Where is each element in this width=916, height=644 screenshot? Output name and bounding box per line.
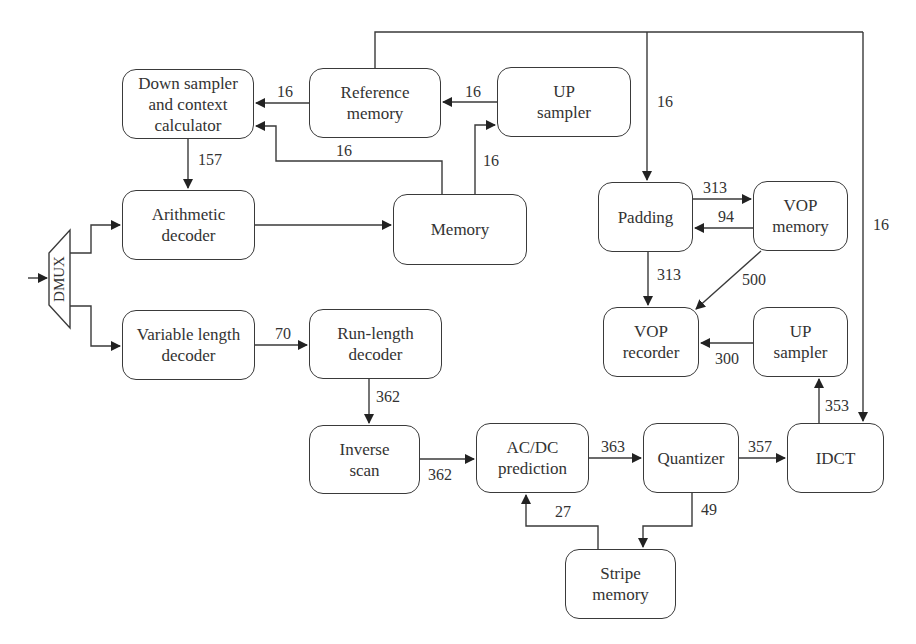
acdc-prediction-block: AC/DC prediction [476, 423, 589, 493]
run-length-decoder-block: Run-length decoder [309, 309, 442, 379]
arithmetic-decoder-block: Arithmetic decoder [122, 190, 255, 260]
dmux-block: DMUX [49, 230, 70, 328]
arithmetic-decoder-label: Arithmetic decoder [152, 204, 226, 246]
inverse-scan-label: Inverse scan [339, 439, 389, 481]
dmux-label: DMUX [51, 256, 67, 302]
edge-label-acdc-to-quant: 363 [601, 439, 625, 455]
edge-label-down-to-arith: 157 [198, 152, 222, 168]
up-sampler-top-block: UP sampler [497, 67, 631, 137]
inverse-scan-block: Inverse scan [309, 425, 420, 494]
edge-label-upr-to-recorder: 300 [715, 351, 739, 367]
edge-label-pad-to-recorder: 313 [657, 267, 681, 283]
edge-label-idct-to-upr: 353 [825, 398, 849, 414]
edge-dmux-to-arith [70, 225, 120, 253]
idct-label: IDCT [816, 448, 856, 469]
reference-memory-block: Reference memory [309, 68, 441, 138]
quantizer-block: Quantizer [643, 423, 739, 493]
memory-label: Memory [431, 219, 490, 240]
up-sampler-right-label: UP sampler [774, 321, 828, 363]
edge-label-rld-to-iscan: 362 [376, 389, 400, 405]
run-length-decoder-label: Run-length decoder [337, 323, 414, 365]
vop-memory-block: VOP memory [753, 181, 848, 251]
padding-label: Padding [618, 207, 674, 228]
quantizer-label: Quantizer [657, 448, 724, 469]
vop-recorder-block: VOP recorder [603, 307, 699, 377]
variable-length-decoder-label: Variable length decoder [137, 324, 240, 366]
edge-top-bus [375, 32, 863, 68]
variable-length-decoder-block: Variable length decoder [122, 310, 255, 380]
up-sampler-top-label: UP sampler [537, 81, 591, 123]
decoder-block-diagram: DMUX Down sampler and context calculator… [0, 0, 916, 644]
edge-label-quant-to-idct: 357 [748, 439, 772, 455]
edge-label-pad-to-vopmem: 313 [703, 180, 727, 196]
edge-label-up-to-ref: 16 [465, 84, 481, 100]
acdc-prediction-label: AC/DC prediction [498, 437, 567, 479]
vop-memory-label: VOP memory [772, 195, 829, 237]
down-sampler-block: Down sampler and context calculator [122, 69, 254, 139]
edge-label-vld-to-rld: 70 [275, 326, 291, 342]
edge-label-vopmem-to-recorder: 500 [742, 272, 766, 288]
edge-label-mem-to-down: 16 [336, 143, 352, 159]
edge-dmux-to-vld [70, 306, 120, 346]
reference-memory-label: Reference memory [341, 82, 410, 124]
edge-label-quant-to-stripe: 49 [701, 502, 717, 518]
edge-quant-to-stripe [643, 493, 692, 547]
memory-block: Memory [393, 194, 527, 265]
stripe-memory-block: Stripe memory [565, 549, 676, 619]
padding-block: Padding [598, 182, 693, 252]
edge-label-iscan-to-acdc: 362 [428, 467, 452, 483]
vop-recorder-label: VOP recorder [623, 321, 680, 363]
edge-label-top-to-padding: 16 [657, 94, 673, 110]
idct-block: IDCT [787, 423, 884, 493]
up-sampler-right-block: UP sampler [753, 307, 848, 377]
stripe-memory-label: Stripe memory [592, 563, 649, 605]
edge-label-vopmem-to-pad: 94 [718, 209, 734, 225]
edge-label-ref-to-down: 16 [277, 84, 293, 100]
down-sampler-label: Down sampler and context calculator [138, 73, 238, 136]
edge-label-mem-to-up: 16 [483, 153, 499, 169]
edge-label-stripe-to-acdc: 27 [555, 504, 571, 520]
edge-label-top-to-idct: 16 [873, 217, 889, 233]
